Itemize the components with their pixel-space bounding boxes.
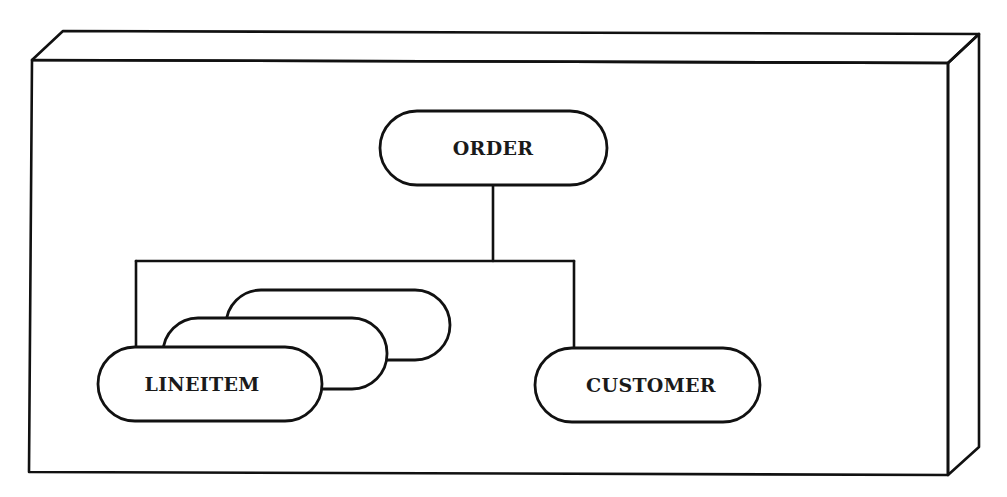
box-right-face: [948, 34, 979, 475]
node-customer[interactable]: CUSTOMER: [535, 348, 760, 422]
order-label: ORDER: [453, 137, 534, 159]
lineitem-label: LINEITEM: [144, 373, 259, 395]
node-order[interactable]: ORDER: [380, 111, 607, 185]
node-lineitem-stack[interactable]: LINEITEM: [98, 290, 450, 421]
box-top-face: [32, 31, 979, 63]
customer-label: CUSTOMER: [586, 374, 716, 396]
order-hierarchy-diagram: ORDER LINEITEM CUSTOMER: [0, 0, 1007, 497]
